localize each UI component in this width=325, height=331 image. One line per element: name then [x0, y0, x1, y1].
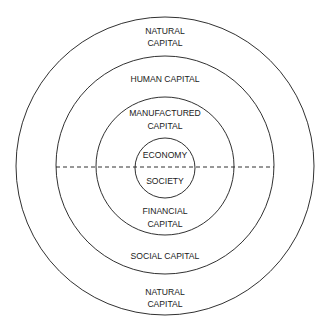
ring-human-social-capital	[56, 56, 274, 274]
nested-capitals-diagram: NATURAL CAPITAL HUMAN CAPITAL MANUFACTUR…	[0, 0, 325, 331]
label-social-capital: SOCIAL CAPITAL	[131, 251, 200, 261]
label-society: SOCIETY	[146, 176, 184, 186]
label-natural-capital-bottom-line2: CAPITAL	[147, 299, 182, 309]
label-manufactured-capital-line1: MANUFACTURED	[129, 108, 201, 118]
ring-natural-capital	[16, 17, 314, 315]
label-economy: ECONOMY	[143, 150, 188, 160]
label-human-capital: HUMAN CAPITAL	[130, 74, 199, 84]
label-natural-capital-top-line1: NATURAL	[145, 26, 185, 36]
label-financial-capital-line1: FINANCIAL	[143, 206, 188, 216]
label-natural-capital-bottom-line1: NATURAL	[145, 287, 185, 297]
label-financial-capital-line2: CAPITAL	[147, 219, 182, 229]
label-manufactured-capital-line2: CAPITAL	[147, 121, 182, 131]
ring-economy-society	[135, 138, 195, 198]
label-natural-capital-top-line2: CAPITAL	[147, 38, 182, 48]
